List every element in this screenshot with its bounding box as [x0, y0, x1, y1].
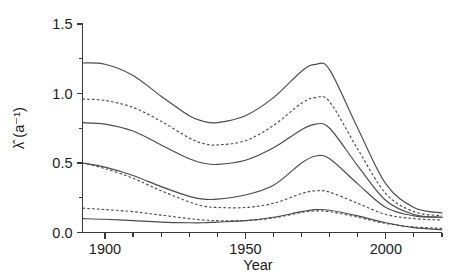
line-chart: 0.00.51.01.5 190019502000 λ̂ (a⁻¹) Year	[0, 0, 452, 280]
x-axis-ticks	[105, 233, 442, 239]
x-axis-tick-labels: 190019502000	[89, 241, 402, 257]
y-tick-label: 1.5	[52, 16, 72, 32]
series-line-middle-upper-solid	[83, 123, 443, 218]
y-tick-label: 0.0	[52, 225, 72, 241]
x-axis-title: Year	[243, 257, 272, 273]
series-line-upper-inner-dashed	[83, 96, 443, 215]
y-axis-title: λ̂ (a⁻¹)	[11, 107, 27, 149]
y-axis-tick-labels: 0.00.51.01.5	[52, 16, 72, 241]
y-axis-title-group: λ̂ (a⁻¹)	[11, 107, 27, 149]
chart-figure: 0.00.51.01.5 190019502000 λ̂ (a⁻¹) Year	[0, 0, 452, 280]
x-tick-label: 1900	[89, 241, 121, 257]
plot-series-group	[83, 63, 443, 230]
x-tick-label: 1950	[229, 241, 261, 257]
x-axis-title-group: Year	[243, 257, 272, 273]
y-tick-label: 1.0	[52, 86, 72, 102]
x-tick-label: 2000	[370, 241, 402, 257]
series-line-bottom-dashed	[83, 208, 443, 228]
y-tick-label: 0.5	[52, 155, 72, 171]
axis-lines	[83, 24, 443, 233]
y-axis-ticks	[77, 24, 83, 233]
